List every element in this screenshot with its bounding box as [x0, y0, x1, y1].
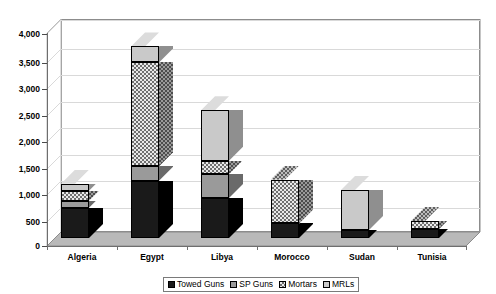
x-tick-mark: [117, 246, 118, 250]
y-tick-mark: [42, 222, 47, 223]
x-tick-mark: [47, 246, 48, 250]
y-axis-label-4000: 4,000: [0, 30, 40, 39]
x-tick-mark: [327, 246, 328, 250]
x-axis-label-sudan: Sudan: [327, 252, 397, 262]
y-tick-mark: [42, 89, 47, 90]
y-axis-label-0: 0: [0, 242, 40, 251]
x-tick-mark: [397, 246, 398, 250]
y-axis-label-500: 500: [0, 218, 40, 227]
gridline-2000: [61, 128, 480, 129]
x-tick-mark: [466, 246, 467, 250]
x-axis-label-tunisia: Tunisia: [397, 252, 467, 262]
bar-segment-algeria-mrls[interactable]: [61, 184, 89, 191]
bar-segment-libya-mrls[interactable]: [201, 110, 229, 161]
bar-segment-morocco-mortars[interactable]: [271, 180, 299, 224]
bar-segment-tunisia-towed-guns[interactable]: [411, 229, 439, 238]
bar-segment-egypt-towed-guns[interactable]: [131, 181, 159, 238]
legend-item-mortars[interactable]: Mortars: [279, 279, 317, 290]
legend-item-sp-guns[interactable]: SP Guns: [230, 279, 273, 290]
y-tick-mark: [42, 116, 47, 117]
y-tick-mark: [42, 34, 47, 35]
legend-swatch-towed-guns-icon: [168, 281, 175, 288]
y-tick-mark: [42, 195, 47, 196]
bar-segment-libya-sp-guns[interactable]: [201, 174, 229, 198]
bar-segment-algeria-mortars[interactable]: [61, 191, 89, 201]
y-tick-mark: [42, 142, 47, 143]
gridline-3500: [61, 49, 480, 50]
chart-container: 0 500 1,000 1,500 2,000 2,500 3,000 3,50…: [0, 0, 496, 294]
bar-segment-libya-mortars[interactable]: [201, 161, 229, 174]
gridline-1500: [61, 155, 480, 156]
legend-swatch-mortars-icon: [279, 281, 286, 288]
legend-item-towed-guns[interactable]: Towed Guns: [168, 279, 224, 290]
gridline-4000: [61, 20, 480, 21]
bar-segment-egypt-mrls[interactable]: [131, 46, 159, 62]
x-axis-label-algeria: Algeria: [47, 252, 117, 262]
y-axis-label-3500: 3,500: [0, 59, 40, 68]
bar-segment-libya-towed-guns[interactable]: [201, 198, 229, 238]
x-axis-label-morocco: Morocco: [257, 252, 327, 262]
legend-swatch-mrls-icon: [323, 281, 330, 288]
x-tick-mark: [257, 246, 258, 250]
legend-label-sp-guns: SP Guns: [239, 279, 273, 290]
y-axis-label-2500: 2,500: [0, 112, 40, 121]
y-tick-mark: [42, 63, 47, 64]
legend-swatch-sp-guns-icon: [230, 281, 237, 288]
y-axis-line: [47, 33, 48, 246]
bar-segment-sudan-towed-guns[interactable]: [341, 230, 369, 238]
bar-segment-morocco-towed-guns[interactable]: [271, 223, 299, 238]
x-tick-mark: [187, 246, 188, 250]
bar-segment-algeria-sp-guns[interactable]: [61, 201, 89, 208]
y-axis-label-2000: 2,000: [0, 138, 40, 147]
y-axis-label-1500: 1,500: [0, 165, 40, 174]
bar-segment-egypt-mortars[interactable]: [131, 62, 159, 166]
gridline-3000: [61, 75, 480, 76]
bar-segment-tunisia-mortars[interactable]: [411, 221, 439, 229]
x-axis-label-egypt: Egypt: [117, 252, 187, 262]
y-axis-label-3000: 3,000: [0, 85, 40, 94]
gridline-2500: [61, 102, 480, 103]
legend-label-mortars: Mortars: [288, 279, 317, 290]
bar-segment-sudan-mrls[interactable]: [341, 190, 369, 230]
y-axis-label-1000: 1,000: [0, 191, 40, 200]
bar-segment-egypt-sp-guns[interactable]: [131, 166, 159, 181]
chart-legend: Towed Guns SP Guns Mortars MRLs: [163, 277, 359, 292]
y-tick-mark: [42, 169, 47, 170]
legend-label-towed-guns: Towed Guns: [177, 279, 224, 290]
x-axis-label-libya: Libya: [187, 252, 257, 262]
legend-label-mrls: MRLs: [332, 279, 354, 290]
bar-segment-algeria-towed-guns[interactable]: [61, 208, 89, 238]
legend-item-mrls[interactable]: MRLs: [323, 279, 354, 290]
